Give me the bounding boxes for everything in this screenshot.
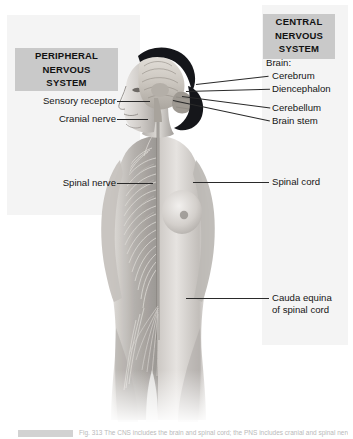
pns-heading-line-2: NERVOUS (15, 63, 118, 77)
leader-line-spinal-nerve (117, 183, 153, 184)
leader-line-cauda-equina (186, 298, 269, 299)
peripheral-nervous-system-heading: PERIPHERAL NERVOUS SYSTEM (15, 48, 118, 91)
caption-text: Fig. 313 The CNS includes the brain and … (79, 429, 348, 436)
diencephalon (151, 83, 169, 97)
label-spinal-cord: Spinal cord (272, 176, 320, 188)
label-cauda-equina: Cauda equina (272, 292, 332, 304)
label-cerebrum: Cerebrum (272, 70, 315, 82)
pns-heading-line-3: SYSTEM (15, 76, 118, 90)
right-nipple (180, 211, 188, 219)
cns-heading-line-2: NERVOUS (263, 29, 335, 43)
leader-line-cranial-nerve (117, 119, 148, 120)
label-cerebellum: Cerebellum (272, 102, 321, 114)
caption-swatch (18, 430, 73, 437)
label-brain-stem: Brain stem (272, 115, 318, 127)
label-diencephalon: Diencephalon (272, 83, 331, 95)
bottom-fade (96, 370, 256, 425)
cns-heading-line-1: CENTRAL (263, 15, 335, 29)
label-sensory-receptor: Sensory receptor (12, 95, 116, 107)
label-brain: Brain: (266, 57, 291, 69)
label-cranial-nerve: Cranial nerve (12, 113, 116, 125)
label-cauda-equina-line-2: of spinal cord (272, 304, 329, 316)
leader-line-spinal-cord (193, 182, 269, 183)
label-spinal-nerve: Spinal nerve (12, 177, 116, 189)
figure-caption: Fig. 313 The CNS includes the brain and … (18, 427, 348, 439)
central-nervous-system-heading: CENTRAL NERVOUS SYSTEM (263, 14, 335, 59)
leader-line-sensory-receptor (117, 101, 150, 102)
cns-heading-line-3: SYSTEM (263, 42, 335, 56)
pns-heading-line-1: PERIPHERAL (15, 49, 118, 63)
human-figure-illustration (96, 40, 256, 425)
